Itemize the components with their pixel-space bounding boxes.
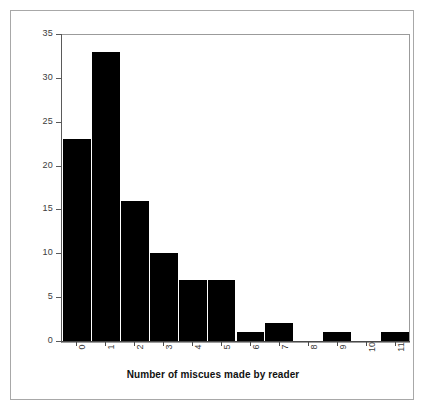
bar-slot bbox=[149, 34, 178, 341]
bar-slot bbox=[62, 34, 91, 341]
x-axis-tick-label: 7 bbox=[279, 341, 291, 353]
x-axis-tick-label: 0 bbox=[76, 341, 88, 353]
x-axis-tick-label: 10 bbox=[366, 341, 378, 353]
x-axis-tick-label: 1 bbox=[105, 341, 117, 353]
y-axis-tick-label: 0 bbox=[13, 336, 53, 345]
x-axis-tick-label: 8 bbox=[308, 341, 320, 353]
histogram-bar[interactable] bbox=[91, 52, 120, 341]
figure-frame: 05101520253035 01234567891011 Number of … bbox=[10, 10, 414, 400]
histogram-bar[interactable] bbox=[207, 280, 236, 341]
y-axis-tick-label: 10 bbox=[13, 248, 53, 257]
y-axis-tick bbox=[56, 341, 62, 342]
histogram-chart: 05101520253035 01234567891011 Number of … bbox=[11, 11, 415, 401]
bar-slot bbox=[322, 34, 351, 341]
x-axis-tick-label: 6 bbox=[250, 341, 262, 353]
x-axis-tick-label: 9 bbox=[337, 341, 349, 353]
x-axis-title: Number of miscues made by reader bbox=[11, 369, 415, 380]
x-axis-tick-label: 4 bbox=[192, 341, 204, 353]
x-axis-tick-label: 11 bbox=[395, 341, 407, 353]
x-axis-tick-label: 5 bbox=[221, 341, 233, 353]
bar-slot bbox=[293, 34, 322, 341]
bar-slot bbox=[264, 34, 293, 341]
x-axis-tick-label: 3 bbox=[163, 341, 175, 353]
bar-slot bbox=[91, 34, 120, 341]
histogram-bar[interactable] bbox=[120, 201, 149, 341]
y-axis-tick-label: 35 bbox=[13, 29, 53, 38]
bars-layer bbox=[62, 34, 409, 341]
y-axis-tick-label: 30 bbox=[13, 73, 53, 82]
bar-slot bbox=[351, 34, 380, 341]
y-axis-tick-label: 15 bbox=[13, 204, 53, 213]
y-axis-tick-label: 20 bbox=[13, 161, 53, 170]
bar-slot bbox=[120, 34, 149, 341]
y-axis-tick-label: 5 bbox=[13, 292, 53, 301]
bar-slot bbox=[380, 34, 409, 341]
histogram-bar[interactable] bbox=[178, 280, 207, 341]
x-axis-tick-label: 2 bbox=[134, 341, 146, 353]
y-axis-tick-label: 25 bbox=[13, 117, 53, 126]
bar-slot bbox=[178, 34, 207, 341]
bar-slot bbox=[207, 34, 236, 341]
histogram-bar[interactable] bbox=[149, 253, 178, 341]
bar-slot bbox=[236, 34, 265, 341]
histogram-bar[interactable] bbox=[62, 139, 91, 341]
